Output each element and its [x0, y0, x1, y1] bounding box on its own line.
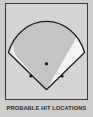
hit-location-marker-right [61, 74, 64, 77]
baseball-field-diagram [6, 4, 87, 99]
hit-location-marker-center [45, 62, 48, 65]
caption-label: PROBABLE HIT LOCATIONS [7, 105, 87, 111]
baseball-field-panel [5, 3, 88, 100]
caption-bar: PROBABLE HIT LOCATIONS [5, 103, 88, 113]
probable-hit-locations-figure: PROBABLE HIT LOCATIONS [0, 0, 93, 117]
hit-location-marker-left [29, 74, 32, 77]
